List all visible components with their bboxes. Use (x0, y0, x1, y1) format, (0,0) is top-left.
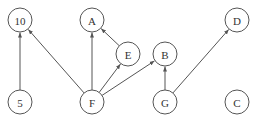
edge-F-to-10 (28, 29, 84, 93)
node-label: G (161, 97, 169, 109)
node-10: 10 (8, 8, 32, 32)
node-label: D (233, 15, 241, 27)
node-label: C (233, 97, 240, 109)
node-D: D (225, 8, 249, 32)
node-G: G (153, 90, 177, 114)
node-label: 10 (15, 15, 27, 27)
edge-G-to-D (173, 29, 229, 93)
graph-diagram: 10ADEB5FGC (0, 0, 254, 120)
edge-F-to-E (99, 64, 120, 92)
node-label: 5 (17, 97, 23, 109)
node-label: A (88, 15, 96, 27)
node-C: C (225, 90, 249, 114)
node-label: B (161, 49, 168, 61)
node-F: F (80, 90, 104, 114)
node-A: A (80, 8, 104, 32)
nodes-group: 10ADEB5FGC (8, 8, 249, 114)
edge-E-to-A (101, 29, 119, 46)
node-label: E (125, 49, 132, 61)
node-E: E (116, 42, 140, 66)
node-label: F (89, 97, 95, 109)
node-B: B (153, 42, 177, 66)
node-5: 5 (8, 90, 32, 114)
